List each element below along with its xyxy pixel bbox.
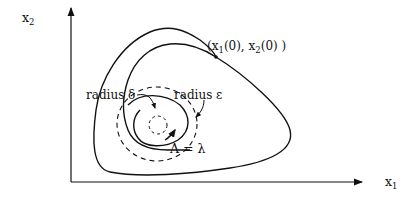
delta-circle [149, 116, 167, 134]
initial-point-dot [214, 55, 218, 59]
radius-epsilon-pointer [196, 100, 204, 117]
ip-mid: (0), x [224, 39, 255, 53]
phase-portrait-figure: x2 x1 (x1(0), x2(0) ) radius δ radius ε … [0, 0, 416, 198]
y-axis-label-sub: 2 [29, 17, 34, 27]
ip-open: (x [207, 39, 218, 53]
lambda-equation-label: Λ = λ [170, 143, 205, 156]
y-axis-label: x2 [22, 12, 34, 27]
x-axis-label: x1 [385, 176, 397, 191]
x-axis-label-sub: 1 [392, 181, 397, 191]
y-axis-label-var: x [22, 10, 29, 25]
radius-delta-label: radius δ [86, 89, 135, 101]
initial-point-label: (x1(0), x2(0) ) [207, 40, 286, 55]
x-axis-label-var: x [385, 174, 392, 189]
ip-close: (0) ) [261, 39, 287, 53]
radius-epsilon-label: radius ε [174, 89, 222, 101]
